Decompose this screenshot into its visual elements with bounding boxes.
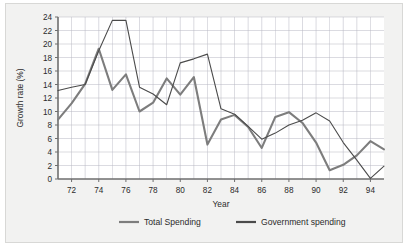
x-tick-label: 88 [284, 186, 294, 195]
y-tick-label: 24 [43, 13, 53, 22]
y-tick-label: 8 [47, 121, 52, 130]
x-tick-label: 92 [339, 186, 349, 195]
x-tick-label: 86 [257, 186, 267, 195]
y-tick-label: 6 [47, 135, 52, 144]
x-tick-label: 90 [312, 186, 322, 195]
y-tick-label: 16 [43, 67, 53, 76]
x-tick-label: 72 [67, 186, 77, 195]
y-axis-title: Growth rate (%) [15, 68, 25, 127]
x-tick-label: 78 [149, 186, 159, 195]
y-tick-label: 0 [47, 175, 52, 184]
x-tick-label: 76 [121, 186, 131, 195]
legend-label-2: Government spending [261, 217, 346, 227]
y-tick-label: 20 [43, 40, 53, 49]
x-tick-label: 74 [94, 186, 104, 195]
x-tick-label: 82 [203, 186, 213, 195]
y-tick-label: 2 [47, 162, 52, 171]
x-tick-label: 80 [176, 186, 186, 195]
y-tick-label: 14 [43, 81, 53, 90]
x-axis-title: Year [213, 199, 230, 209]
y-tick-label: 12 [43, 94, 53, 103]
y-tick-label: 10 [43, 108, 53, 117]
x-tick-label: 84 [230, 186, 240, 195]
chart-figure: 0246810121416182022247274767880828486889… [5, 3, 403, 243]
y-tick-label: 4 [47, 148, 52, 157]
line-chart: 0246810121416182022247274767880828486889… [6, 4, 404, 244]
y-tick-label: 18 [43, 54, 53, 63]
legend-label-1: Total Spending [144, 217, 201, 227]
y-tick-label: 22 [43, 27, 53, 36]
x-tick-label: 94 [366, 186, 376, 195]
